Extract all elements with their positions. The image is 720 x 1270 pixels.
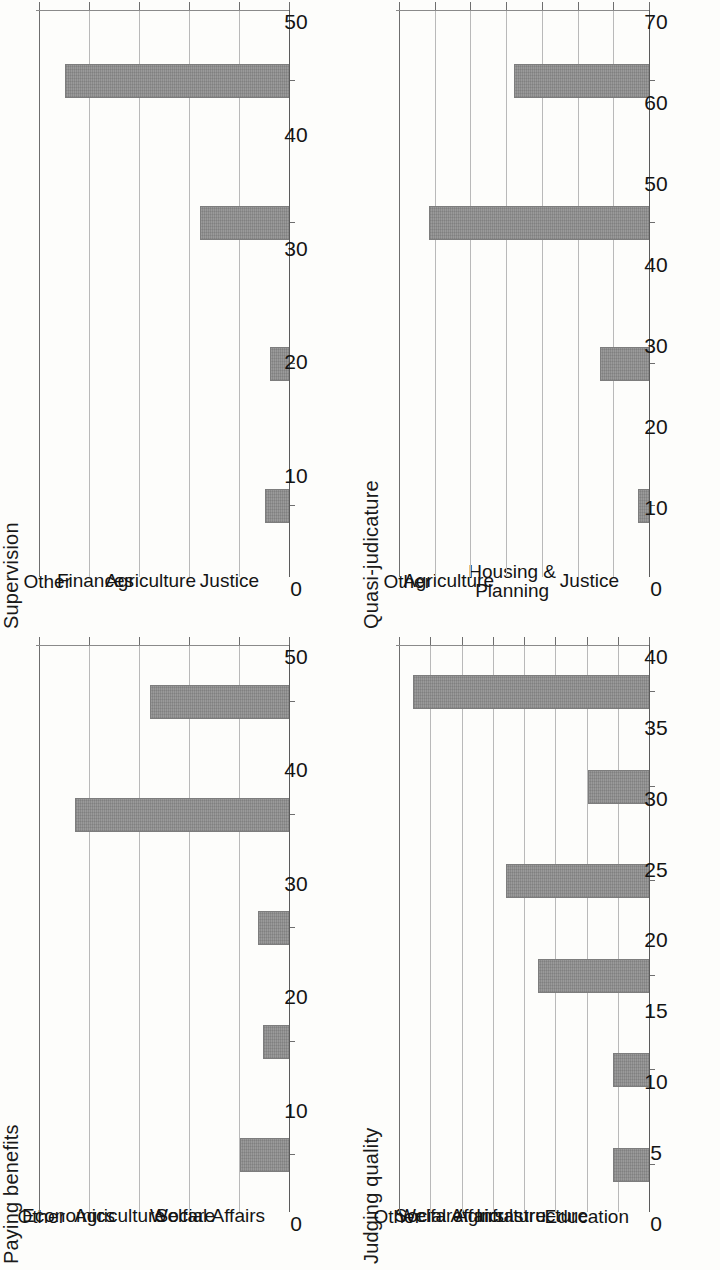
figure-page: Supervision OtherFinancesAgricultureJust…: [0, 0, 720, 1270]
bar-group: [400, 10, 650, 577]
chart-rotation-wrapper: Judging quality OtherWelfareSocial Affai…: [360, 635, 720, 1270]
bar-cell: [40, 1099, 290, 1212]
chart-slot-quasi-judicature: Quasi-judicature OtherAgricultureHousing…: [360, 0, 720, 635]
bar-cell: [400, 740, 650, 835]
category-tick: [290, 1154, 295, 1155]
bar-cell: [400, 294, 650, 436]
bar: [75, 798, 290, 832]
bar: [429, 206, 650, 240]
value-tick-label: 20: [284, 350, 307, 374]
category-axis-line: [289, 645, 290, 1212]
bar-cell: [40, 10, 290, 152]
bar: [240, 1138, 290, 1172]
bar: [200, 206, 290, 240]
value-tick-label-group: 0510152025303540: [656, 645, 716, 1212]
value-tick-label: 10: [644, 496, 667, 520]
bar-group: [40, 645, 290, 1212]
category-tick: [290, 80, 295, 81]
value-tick-label: 40: [284, 758, 307, 782]
bar: [506, 864, 650, 898]
value-tick-label: 0: [290, 577, 302, 601]
category-tick: [650, 691, 655, 692]
category-tick: [650, 80, 655, 81]
bar: [263, 1025, 291, 1059]
value-tick-label: 40: [644, 645, 667, 669]
bar: [588, 770, 651, 804]
value-tick-label: 0: [650, 577, 662, 601]
bar-cell: [40, 758, 290, 871]
chart-slot-supervision: Supervision OtherFinancesAgricultureJust…: [0, 0, 360, 635]
category-tick: [650, 363, 655, 364]
bar-group: [40, 10, 290, 577]
chart-judging-quality: Judging quality OtherWelfareSocial Affai…: [360, 635, 720, 1270]
value-tick-label: 50: [284, 10, 307, 34]
value-tick-label-group: 010203040506070: [656, 10, 716, 577]
bar-cell: [40, 985, 290, 1098]
value-tick-label: 30: [644, 787, 667, 811]
value-axis-spine: [36, 10, 290, 11]
bar-cell: [40, 645, 290, 758]
value-tick-label: 50: [644, 172, 667, 196]
value-tick-label: 60: [644, 91, 667, 115]
value-tick-label: 30: [284, 237, 307, 261]
value-tick-label-group: 01020304050: [296, 645, 356, 1212]
plot-area: [400, 0, 650, 635]
category-tick: [290, 1041, 295, 1042]
category-tick: [290, 927, 295, 928]
bar-cell: [40, 872, 290, 985]
bar: [265, 489, 290, 523]
chart-quasi-judicature: Quasi-judicature OtherAgricultureHousing…: [360, 0, 720, 635]
bar-cell: [400, 152, 650, 294]
category-tick: [290, 814, 295, 815]
chart-slot-paying-benefits: Paying benefits OtherEconomicsAgricultur…: [0, 635, 360, 1270]
category-tick: [650, 222, 655, 223]
chart-supervision: Supervision OtherFinancesAgricultureJust…: [0, 0, 360, 635]
chart-rotation-wrapper: Paying benefits OtherEconomicsAgricultur…: [0, 635, 360, 1270]
value-tick-label: 30: [644, 334, 667, 358]
value-tick-label: 70: [644, 10, 667, 34]
bar: [413, 675, 651, 709]
bar-cell: [40, 435, 290, 577]
chart-rotation-wrapper: Supervision OtherFinancesAgricultureJust…: [0, 0, 360, 635]
value-axis-spine: [396, 10, 650, 11]
bar-cell: [400, 929, 650, 1024]
plot-area: [400, 635, 650, 1270]
value-tick-label: 15: [644, 999, 667, 1023]
chart-slot-judging-quality: Judging quality OtherWelfareSocial Affai…: [360, 635, 720, 1270]
category-tick: [290, 222, 295, 223]
chart-title: Supervision: [0, 349, 23, 629]
bar-cell: [400, 435, 650, 577]
bar-cell: [400, 645, 650, 740]
value-tick-label: 5: [650, 1141, 662, 1165]
bar: [613, 1148, 651, 1182]
value-tick-label: 0: [650, 1212, 662, 1236]
value-tick-label: 10: [284, 464, 307, 488]
value-tick-label: 30: [284, 872, 307, 896]
value-tick-label: 35: [644, 716, 667, 740]
category-axis-line: [289, 10, 290, 577]
bar: [600, 347, 650, 381]
value-tick-label-group: 01020304050: [296, 10, 356, 577]
value-tick-label: 10: [644, 1070, 667, 1094]
plot-area: [40, 635, 290, 1270]
value-tick-label: 40: [644, 253, 667, 277]
bar-cell: [400, 10, 650, 152]
bar-cell: [400, 1023, 650, 1118]
bar-cell: [40, 152, 290, 294]
bar: [514, 64, 650, 98]
bar: [65, 64, 290, 98]
bar: [538, 959, 651, 993]
value-tick-label: 25: [644, 858, 667, 882]
bar-cell: [400, 834, 650, 929]
value-tick-label: 10: [284, 1099, 307, 1123]
category-tick: [290, 505, 295, 506]
value-tick-label: 40: [284, 123, 307, 147]
bar: [150, 685, 290, 719]
chart-title: Quasi-judicature: [360, 349, 383, 629]
category-tick: [650, 975, 655, 976]
bar: [258, 911, 291, 945]
bar-cell: [400, 1118, 650, 1213]
bar-cell: [40, 294, 290, 436]
plot-area: [40, 0, 290, 635]
value-axis-spine: [396, 645, 650, 646]
